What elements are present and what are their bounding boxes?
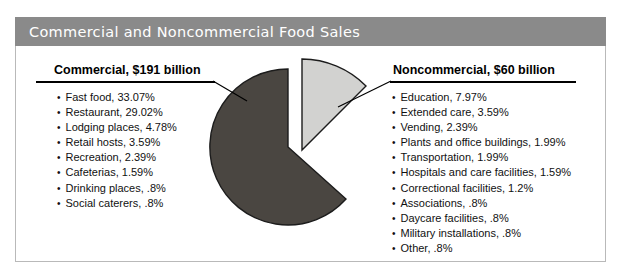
- food-sales-figure: Commercial and Noncommercial Food Sales …: [0, 0, 619, 279]
- list-item: Retail hosts, 3.59%: [57, 135, 177, 150]
- list-item: Social caterers, .8%: [57, 196, 177, 211]
- pie-chart: [196, 52, 396, 232]
- list-item: Plants and office buildings, 1.99%: [392, 135, 571, 150]
- list-item: Fast food, 33.07%: [57, 90, 177, 105]
- list-item: Lodging places, 4.78%: [57, 120, 177, 135]
- list-item: Transportation, 1.99%: [392, 150, 571, 165]
- list-item: Daycare facilities, .8%: [392, 211, 571, 226]
- noncommercial-list: Education, 7.97% Extended care, 3.59% Ve…: [392, 90, 571, 256]
- list-item: Drinking places, .8%: [57, 181, 177, 196]
- list-item: Other, .8%: [392, 241, 571, 256]
- noncommercial-title: Noncommercial, $60 billion: [393, 63, 555, 77]
- list-item: Extended care, 3.59%: [392, 105, 571, 120]
- pie-chart-svg: [196, 52, 396, 232]
- page-title: Commercial and Noncommercial Food Sales: [29, 24, 360, 40]
- commercial-title: Commercial, $191 billion: [54, 63, 201, 77]
- commercial-list: Fast food, 33.07% Restaurant, 29.02% Lod…: [57, 90, 177, 211]
- list-item: Military installations, .8%: [392, 226, 571, 241]
- list-item: Cafeterias, 1.59%: [57, 165, 177, 180]
- list-item: Restaurant, 29.02%: [57, 105, 177, 120]
- figure-header-bar: Commercial and Noncommercial Food Sales: [15, 17, 606, 46]
- noncommercial-title-rule: [390, 81, 576, 83]
- list-item: Hospitals and care facilities, 1.59%: [392, 165, 571, 180]
- pie-slice-noncommercial: [302, 59, 366, 150]
- list-item: Vending, 2.39%: [392, 120, 571, 135]
- list-item: Correctional facilities, 1.2%: [392, 181, 571, 196]
- list-item: Associations, .8%: [392, 196, 571, 211]
- commercial-title-rule: [36, 81, 215, 83]
- list-item: Education, 7.97%: [392, 90, 571, 105]
- list-item: Recreation, 2.39%: [57, 150, 177, 165]
